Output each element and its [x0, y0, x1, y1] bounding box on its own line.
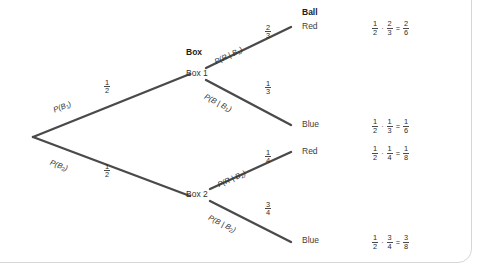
- equation-1-r-den: 6: [403, 29, 409, 37]
- diagram-canvas: Box Ball Box 1 Box 2 Red Blue Red Blue P…: [0, 0, 495, 276]
- equation-2-equals: =: [393, 122, 403, 131]
- prob-box1-red: 2 3: [265, 22, 271, 40]
- prob-root-box1: 1 2: [104, 77, 110, 95]
- tree-branches: [0, 0, 495, 276]
- prob-box2-red: 1 4: [265, 147, 271, 165]
- equation-3-equals: =: [393, 149, 403, 158]
- outcome-red-box2: Red: [302, 147, 318, 156]
- prob-root-box1-denominator: 2: [104, 87, 110, 95]
- equation-blue-box1: 1 2 · 1 3 = 1 6: [372, 118, 409, 135]
- equation-blue-box2: 1 2 · 3 4 = 3 8: [372, 234, 409, 251]
- equation-4-mult: ·: [378, 238, 386, 247]
- prob-root-box2: 1 2: [104, 161, 110, 179]
- column-header-box: Box: [186, 48, 202, 57]
- equation-red-box2: 1 2 · 1 4 = 1 8: [372, 145, 409, 162]
- node-box-1: Box 1: [186, 69, 208, 78]
- equation-1-mult: ·: [378, 24, 386, 33]
- equation-3-mult: ·: [378, 149, 386, 158]
- equation-3-r-den: 8: [403, 154, 409, 162]
- equation-2-r-den: 6: [403, 127, 409, 135]
- column-header-ball: Ball: [302, 8, 318, 17]
- outcome-red-box1: Red: [302, 22, 318, 31]
- prob-box1-red-denominator: 3: [265, 32, 271, 40]
- equation-1-equals: =: [393, 24, 403, 33]
- equation-red-box1: 1 2 · 2 3 = 2 6: [372, 20, 409, 37]
- prob-root-box2-denominator: 2: [104, 171, 110, 179]
- outcome-blue-box2: Blue: [302, 236, 319, 245]
- prob-box1-blue: 1 3: [265, 78, 271, 96]
- prob-box2-blue: 3 4: [265, 199, 271, 217]
- prob-box1-blue-denominator: 3: [265, 88, 271, 96]
- prob-box2-red-denominator: 4: [265, 157, 271, 165]
- equation-2-mult: ·: [378, 122, 386, 131]
- equation-4-r-den: 8: [403, 243, 409, 251]
- equation-4-equals: =: [393, 238, 403, 247]
- node-box-2: Box 2: [186, 190, 208, 199]
- outcome-blue-box1: Blue: [302, 120, 319, 129]
- prob-box2-blue-denominator: 4: [265, 209, 271, 217]
